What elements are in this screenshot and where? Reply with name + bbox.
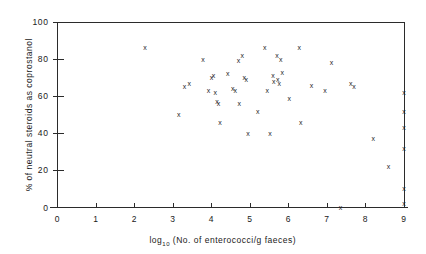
y-tick-label-60: 60: [38, 91, 49, 101]
data-point: x: [279, 56, 283, 63]
data-point: x: [299, 119, 303, 126]
x-tick-label-2: 2: [132, 214, 137, 224]
data-point: x: [212, 72, 216, 79]
x-tick-label-1: 1: [93, 214, 98, 224]
data-point: x: [263, 44, 267, 51]
data-point: x: [310, 82, 314, 89]
data-point: x: [214, 89, 218, 96]
data-point: x: [201, 56, 205, 63]
data-point: x: [402, 124, 406, 131]
data-point: x: [244, 76, 248, 83]
data-point: x: [281, 69, 285, 76]
data-point: x: [402, 185, 406, 192]
data-point: x: [288, 95, 292, 102]
data-point: x: [226, 70, 230, 77]
plot-canvas: 0123456789020406080100xxxxxxxxxxxxxxxxxx…: [0, 0, 426, 254]
data-point: x: [256, 108, 260, 115]
data-point: x: [268, 130, 272, 137]
data-point: x: [330, 59, 334, 66]
data-point: x: [234, 87, 238, 94]
x-tick-label-8: 8: [363, 214, 368, 224]
data-point: x: [237, 100, 241, 107]
data-point: x: [246, 130, 250, 137]
data-point: x: [402, 108, 406, 115]
x-tick-label-9: 9: [401, 214, 406, 224]
data-point: x: [298, 44, 302, 51]
x-tick-label-0: 0: [55, 214, 60, 224]
data-point: x: [266, 87, 270, 94]
data-point: x: [217, 100, 221, 107]
y-tick-label-0: 0: [43, 203, 48, 213]
data-point-group: xxxxxxxxxxxxxxxxxxxxxxxxxxxxxxxxxxxxxxxx…: [143, 44, 406, 211]
data-point: x: [402, 89, 406, 96]
data-point: x: [278, 80, 282, 87]
data-point: x: [371, 135, 375, 142]
x-tick-label-7: 7: [324, 214, 329, 224]
y-tick-label-100: 100: [33, 17, 49, 27]
data-point: x: [402, 145, 406, 152]
data-point: x: [187, 80, 191, 87]
data-point: x: [402, 200, 406, 207]
y-axis-title: % of neutral steroids as coprostanol: [24, 38, 34, 191]
y-tick-label-40: 40: [38, 128, 49, 138]
data-point: x: [143, 44, 147, 51]
y-tick-label-20: 20: [38, 165, 49, 175]
data-point: x: [218, 119, 222, 126]
x-axis-title: log10 (No. of enterococci/g faeces): [149, 235, 296, 247]
scatter-chart-figure: 0123456789020406080100xxxxxxxxxxxxxxxxxx…: [0, 0, 426, 254]
x-tick-label-4: 4: [209, 214, 214, 224]
data-point: x: [207, 87, 211, 94]
data-point: x: [177, 111, 181, 118]
data-point: x: [241, 52, 245, 59]
data-point: x: [339, 204, 343, 211]
data-point: x: [323, 87, 327, 94]
data-point: x: [387, 163, 391, 170]
y-tick-label-80: 80: [38, 54, 49, 64]
data-point: x: [352, 83, 356, 90]
x-tick-label-6: 6: [286, 214, 291, 224]
data-point: x: [183, 83, 187, 90]
x-tick-label-3: 3: [170, 214, 175, 224]
x-tick-label-5: 5: [247, 214, 252, 224]
plot-frame: [58, 22, 405, 208]
